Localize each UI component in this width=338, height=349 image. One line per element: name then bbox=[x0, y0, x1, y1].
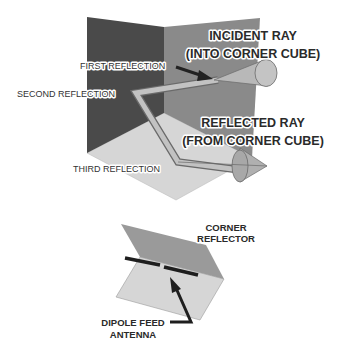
corner-reflector-figure: CORNER REFLECTOR DIPOLE FEED ANTENNA bbox=[101, 222, 255, 340]
reflected-ray-sublabel: (FROM CORNER CUBE) bbox=[182, 134, 324, 148]
incident-ray-end bbox=[255, 60, 277, 87]
corner-cube-figure: INCIDENT RAY (INTO CORNER CUBE) FIRST RE… bbox=[17, 17, 324, 200]
corner-reflector-label: CORNER bbox=[205, 222, 246, 233]
diagram-canvas: INCIDENT RAY (INTO CORNER CUBE) FIRST RE… bbox=[0, 0, 338, 349]
first-reflection-label: FIRST REFLECTION bbox=[80, 61, 165, 71]
second-reflection-label: SECOND REFLECTION bbox=[17, 89, 115, 99]
third-reflection-label: THIRD REFLECTION bbox=[73, 164, 160, 174]
dipole-feed-label: DIPOLE FEED bbox=[101, 317, 164, 328]
corner-reflector-sublabel: REFLECTOR bbox=[197, 233, 255, 244]
reflected-ray-end bbox=[232, 150, 248, 182]
dipole-feed-sublabel: ANTENNA bbox=[110, 329, 157, 340]
reflected-ray-label: REFLECTED RAY bbox=[201, 116, 305, 130]
incident-ray-sublabel: (INTO CORNER CUBE) bbox=[186, 47, 321, 61]
incident-ray-label: INCIDENT RAY bbox=[209, 29, 297, 43]
